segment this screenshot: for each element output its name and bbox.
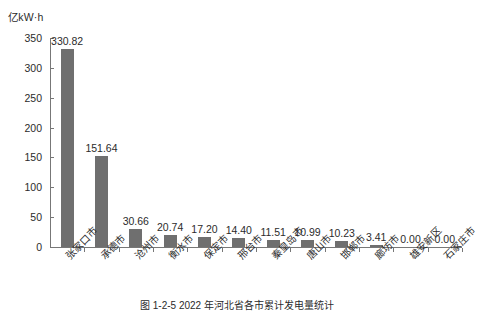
x-axis-tick-mark bbox=[222, 248, 223, 252]
y-axis-tick-label: 350 bbox=[2, 33, 42, 44]
x-axis-tick-mark bbox=[187, 248, 188, 252]
bar bbox=[61, 49, 74, 247]
x-axis-tick-mark bbox=[462, 248, 463, 252]
y-axis-tick-label: 50 bbox=[2, 212, 42, 223]
x-axis-tick-mark bbox=[256, 248, 257, 252]
y-axis-tick-label: 300 bbox=[2, 63, 42, 74]
x-axis-tick-mark bbox=[359, 248, 360, 252]
bar-value-label: 151.64 bbox=[80, 143, 124, 154]
figure-caption: 图 1-2-5 2022 年河北省各市累计发电量统计 bbox=[0, 297, 474, 312]
y-axis-tick-label: 0 bbox=[2, 242, 42, 253]
x-axis-tick-mark bbox=[393, 248, 394, 252]
x-axis-tick-mark bbox=[84, 248, 85, 252]
x-axis-tick-mark bbox=[153, 248, 154, 252]
y-axis-tick-label: 200 bbox=[2, 123, 42, 134]
x-axis-tick-mark bbox=[325, 248, 326, 252]
y-axis-tick-label: 250 bbox=[2, 93, 42, 104]
y-axis-tick-label: 150 bbox=[2, 152, 42, 163]
x-axis-tick-mark bbox=[290, 248, 291, 252]
y-axis-line bbox=[50, 38, 51, 248]
bar-value-label: 330.82 bbox=[45, 36, 89, 47]
x-axis-tick-mark bbox=[428, 248, 429, 252]
x-axis-tick-mark bbox=[119, 248, 120, 252]
y-axis-tick-label: 100 bbox=[2, 182, 42, 193]
y-axis-unit-label: 亿kW·h bbox=[8, 9, 44, 24]
